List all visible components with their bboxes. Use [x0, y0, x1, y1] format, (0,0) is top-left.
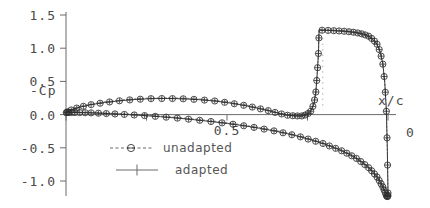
y-tick-label: 1.5 — [30, 8, 56, 23]
legend-entry-adapted: adapted — [116, 163, 228, 177]
cp-distribution-chart: 1.51.00.50.0-0.5-1.00.50 -Cp x/c unadapt… — [0, 0, 430, 208]
y-tick-label: -0.5 — [21, 141, 56, 156]
y-tick-label: -1.0 — [21, 174, 56, 189]
y-tick-label: 1.0 — [30, 41, 56, 56]
y-tick-label: 0.0 — [30, 108, 56, 123]
y-axis-label: -Cp — [30, 83, 56, 98]
x-axis-label: x/c — [378, 93, 404, 108]
legend-entry-unadapted: unadapted — [110, 141, 232, 155]
legend-label-adapted: adapted — [175, 163, 228, 177]
legend-label-unadapted: unadapted — [163, 141, 232, 155]
plot-canvas: 1.51.00.50.0-0.5-1.00.50 -Cp x/c unadapt… — [0, 0, 430, 208]
x-tick-label: 0 — [406, 125, 415, 140]
legend: unadapted adapted — [110, 141, 232, 177]
